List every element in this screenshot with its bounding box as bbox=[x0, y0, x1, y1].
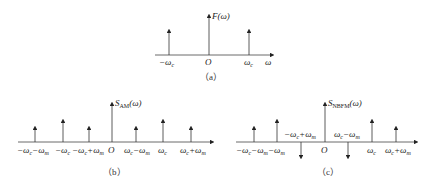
caption-b: （b） bbox=[103, 167, 126, 177]
tick-b-7: ωc+ωm bbox=[180, 145, 206, 156]
ylabel-c: SNBFM(ω) bbox=[328, 98, 362, 109]
panel-a: F(ω) −ωc O ωc ω （a） bbox=[155, 11, 272, 82]
tick-c-2: −ωm bbox=[268, 145, 285, 156]
origin-a: O bbox=[205, 57, 212, 67]
tick-b-1: −ωc−ωm bbox=[17, 145, 50, 156]
panel-b: SAM(ω) −ωc−ωm −ωc −ωc+ωm O ωc−ωm ωc ωc+ω… bbox=[17, 98, 212, 177]
ylabel-b: SAM(ω) bbox=[115, 98, 142, 109]
tick-c-5: ωc−ωm bbox=[334, 129, 360, 140]
tick-a-pos-wc: ωc bbox=[244, 57, 253, 68]
tick-b-5: ωc−ωm bbox=[124, 145, 150, 156]
ylabel-a: F(ω) bbox=[211, 11, 230, 21]
origin-c: O bbox=[321, 145, 328, 155]
tick-c-6: ωc bbox=[367, 145, 376, 156]
tick-b-6: ωc bbox=[158, 145, 167, 156]
spectrum-diagram: F(ω) −ωc O ωc ω （a） SAM(ω) −ωc−ωm −ωc −ω… bbox=[0, 0, 429, 189]
tick-c-1: −ωc−ωm bbox=[236, 145, 269, 156]
tick-c-3: −ωc+ωm bbox=[284, 129, 317, 140]
tick-c-7: ωc+ωm bbox=[385, 145, 411, 156]
origin-b: O bbox=[108, 145, 115, 155]
tick-a-neg-wc: −ωc bbox=[159, 57, 174, 68]
tick-b-3: −ωc+ωm bbox=[72, 145, 105, 156]
panel-c: SNBFM(ω) −ωc+ωm ωc−ωm −ωc−ωm −ωm O ωc ωc… bbox=[236, 98, 416, 177]
caption-a: （a） bbox=[200, 72, 222, 82]
tick-b-2: −ωc bbox=[55, 145, 70, 156]
xlabel-a: ω bbox=[265, 57, 271, 67]
caption-c: （c） bbox=[317, 167, 339, 177]
